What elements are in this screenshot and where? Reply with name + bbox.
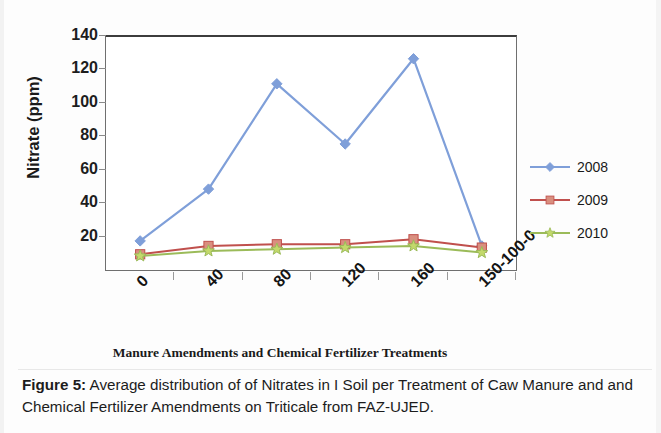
chart-legend: 200820092010 — [530, 150, 650, 249]
legend-key-2008 — [530, 160, 570, 174]
y-tick-mark — [99, 202, 106, 203]
y-tick-mark — [99, 35, 106, 36]
y-tick-label: 20 — [42, 228, 98, 244]
chart-figure: Nitrate (ppm) 14012010080604020 04080120… — [0, 0, 661, 370]
y-tick-label: 100 — [42, 94, 98, 110]
series-2008 — [135, 54, 487, 252]
x-tick-mark — [447, 272, 448, 280]
series-2010 — [134, 240, 487, 261]
x-axis-tick-labels: 04080120160150-100-0 — [0, 278, 661, 348]
figure-number: Figure 5: — [22, 376, 86, 393]
y-axis-title: Nitrate (ppm) — [24, 33, 43, 223]
data-point-marker — [545, 227, 555, 237]
y-tick-mark — [99, 169, 106, 170]
x-tick-mark — [378, 272, 379, 280]
legend-label: 2010 — [577, 225, 608, 241]
caption-text: Average distribution of of Nitrates in I… — [22, 376, 633, 415]
legend-label: 2008 — [577, 159, 608, 175]
x-axis-title: Manure Amendments and Chemical Fertilize… — [0, 345, 560, 361]
x-tick-mark — [242, 272, 243, 280]
y-tick-mark — [99, 68, 106, 69]
y-tick-mark — [99, 102, 106, 103]
x-tick-mark — [173, 272, 174, 280]
legend-key-2010 — [530, 226, 570, 240]
legend-item-2008[interactable]: 2008 — [530, 150, 650, 183]
data-point-marker — [546, 196, 554, 204]
figure-caption: Figure 5: Average distribution of of Nit… — [22, 374, 648, 417]
y-tick-mark — [99, 135, 106, 136]
series-2009 — [136, 235, 487, 259]
y-axis-tick-labels: 14012010080604020 — [42, 26, 98, 276]
x-tick-mark — [515, 272, 516, 280]
legend-item-2009[interactable]: 2009 — [530, 183, 650, 216]
y-tick-label: 40 — [42, 194, 98, 210]
legend-key-2009 — [530, 193, 570, 207]
plot-area — [105, 35, 517, 271]
x-tick-mark — [310, 272, 311, 280]
legend-label: 2009 — [577, 192, 608, 208]
legend-square-icon — [544, 194, 556, 206]
y-tick-label: 60 — [42, 161, 98, 177]
series-canvas — [106, 37, 516, 271]
figure-page: Nitrate (ppm) 14012010080604020 04080120… — [0, 0, 661, 433]
series-line — [140, 59, 482, 246]
x-tick-label: 0 — [133, 272, 152, 291]
y-tick-label: 80 — [42, 127, 98, 143]
legend-item-2010[interactable]: 2010 — [530, 216, 650, 249]
y-tick-label: 140 — [42, 27, 98, 43]
legend-diamond-icon — [544, 161, 556, 173]
data-point-marker — [546, 162, 555, 171]
y-tick-mark — [99, 236, 106, 237]
legend-star-icon — [544, 227, 556, 239]
y-tick-label: 120 — [42, 60, 98, 76]
caption-divider — [18, 369, 652, 370]
